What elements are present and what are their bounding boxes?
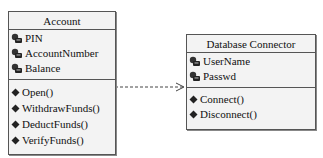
attribute: AccountNumber bbox=[11, 46, 115, 61]
class-account: Account PIN AccountNumber Balance Open()… bbox=[8, 11, 116, 155]
operation: Connect() bbox=[189, 92, 315, 107]
operation: Disconnect() bbox=[189, 107, 315, 122]
operation: VerifyFunds() bbox=[11, 132, 115, 148]
operation-icon bbox=[11, 104, 20, 113]
attribute: PIN bbox=[11, 31, 115, 46]
attribute-list: PIN AccountNumber Balance bbox=[9, 30, 115, 80]
attribute-icon bbox=[11, 33, 24, 44]
operation-list: Open() WithdrawFunds() DeductFunds() Ver… bbox=[9, 80, 115, 150]
class-title: Database Connector bbox=[187, 35, 315, 53]
operation-icon bbox=[11, 88, 20, 97]
class-database-connector: Database Connector UserName Passwd Conne… bbox=[186, 34, 316, 130]
attribute-icon bbox=[189, 56, 202, 67]
attribute: UserName bbox=[189, 54, 315, 69]
attribute-list: UserName Passwd bbox=[187, 53, 315, 88]
operation: Open() bbox=[11, 84, 115, 100]
operation-icon bbox=[189, 95, 198, 104]
class-title: Account bbox=[9, 12, 115, 30]
attribute: Balance bbox=[11, 61, 115, 76]
attribute-icon bbox=[189, 71, 202, 82]
operation: DeductFunds() bbox=[11, 116, 115, 132]
operation: WithdrawFunds() bbox=[11, 100, 115, 116]
operation-icon bbox=[189, 110, 198, 119]
attribute: Passwd bbox=[189, 69, 315, 84]
operation-icon bbox=[11, 120, 20, 129]
operation-list: Connect() Disconnect() bbox=[187, 88, 315, 124]
attribute-icon bbox=[11, 63, 24, 74]
attribute-icon bbox=[11, 48, 24, 59]
operation-icon bbox=[11, 136, 20, 145]
